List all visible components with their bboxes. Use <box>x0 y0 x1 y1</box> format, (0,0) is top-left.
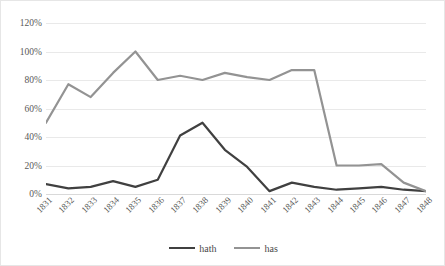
x-tick-label: 1832 <box>57 195 77 215</box>
y-tick-label: 80% <box>2 75 42 85</box>
y-tick-label: 60% <box>2 104 42 114</box>
legend-label: hath <box>199 243 216 254</box>
chart-legend: hathhas <box>1 237 445 259</box>
x-axis: 1831183218331834183518361837183818391840… <box>46 195 426 239</box>
x-tick-label: 1847 <box>392 195 412 215</box>
y-tick-label: 120% <box>2 18 42 28</box>
line-chart: 0%20%40%60%80%100%120% 18311832183318341… <box>0 0 445 266</box>
y-tick-label: 100% <box>2 47 42 57</box>
legend-label: has <box>264 243 277 254</box>
y-tick-label: 20% <box>2 161 42 171</box>
x-tick-label: 1844 <box>325 195 345 215</box>
x-tick-label: 1838 <box>191 195 211 215</box>
x-tick-label: 1835 <box>124 195 144 215</box>
x-tick-label: 1846 <box>370 195 390 215</box>
x-tick-label: 1843 <box>303 195 323 215</box>
x-tick-label: 1840 <box>235 195 255 215</box>
legend-swatch-icon <box>234 247 260 250</box>
legend-entry-hath[interactable]: hath <box>169 243 216 254</box>
series-line-hath <box>46 123 426 191</box>
y-tick-label: 0% <box>2 189 42 199</box>
x-tick-label: 1848 <box>414 195 434 215</box>
plot-area <box>46 23 426 194</box>
x-tick-label: 1836 <box>146 195 166 215</box>
series-lines <box>46 23 426 194</box>
x-tick-label: 1834 <box>101 195 121 215</box>
x-tick-label: 1841 <box>258 195 278 215</box>
x-tick-label: 1837 <box>168 195 188 215</box>
x-tick-label: 1833 <box>79 195 99 215</box>
x-tick-label: 1845 <box>347 195 367 215</box>
legend-entry-has[interactable]: has <box>234 243 277 254</box>
y-tick-label: 40% <box>2 132 42 142</box>
x-tick-label: 1842 <box>280 195 300 215</box>
legend-swatch-icon <box>169 247 195 250</box>
y-axis: 0%20%40%60%80%100%120% <box>1 23 42 194</box>
x-tick-label: 1839 <box>213 195 233 215</box>
series-line-has <box>46 52 426 192</box>
